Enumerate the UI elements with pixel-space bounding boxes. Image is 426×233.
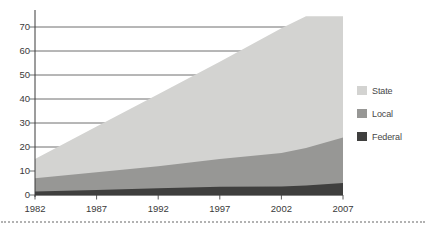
y-tick-label: 30 [19, 117, 30, 128]
legend-label-federal: Federal [372, 132, 402, 142]
legend-label-local: Local [372, 109, 393, 119]
x-tick-label: 1982 [24, 203, 45, 214]
y-tick-label: 50 [19, 69, 30, 80]
x-tick-label: 1987 [86, 203, 107, 214]
y-tick-label: 10 [19, 165, 30, 176]
y-tick-label: 60 [19, 45, 30, 56]
x-tick-label: 1997 [209, 203, 230, 214]
y-tick-label: 40 [19, 93, 30, 104]
legend-label-state: State [372, 86, 393, 96]
y-tick-label: 20 [19, 141, 30, 152]
dotted-separator [1, 221, 425, 223]
local-swatch-icon [357, 109, 367, 118]
legend-item-local: Local [357, 102, 402, 125]
y-tick-label: 70 [19, 21, 30, 32]
state-swatch-icon [357, 86, 367, 95]
y-tick-label: 0 [25, 189, 30, 200]
legend-item-state: State [357, 79, 402, 102]
legend-item-federal: Federal [357, 125, 402, 148]
federal-swatch-icon [357, 132, 367, 141]
legend: State Local Federal [357, 79, 402, 148]
x-tick-label: 1992 [148, 203, 169, 214]
chart-canvas: 010203040506070198219871992199720022007 … [0, 0, 426, 233]
x-tick-label: 2002 [271, 203, 292, 214]
x-tick-label: 2007 [332, 203, 353, 214]
